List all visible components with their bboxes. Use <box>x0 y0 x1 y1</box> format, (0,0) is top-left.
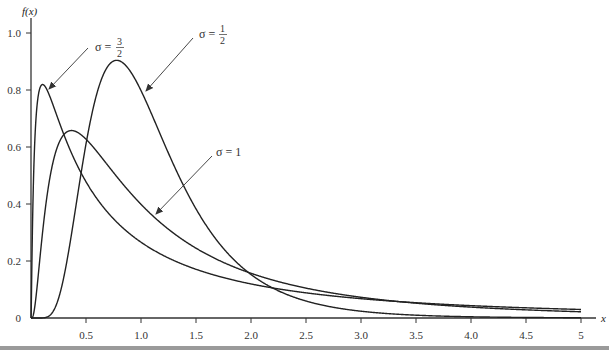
x-tick-label: 2.0 <box>244 329 258 341</box>
label-sigma-1-2-num: 1 <box>220 23 225 34</box>
x-tick-label: 1.5 <box>189 329 203 341</box>
x-tick-label: 5 <box>578 329 584 341</box>
x-tick-label: 2.5 <box>299 329 313 341</box>
x-tick-label: 4.0 <box>464 329 478 341</box>
arrow-sigma-1-2 <box>146 38 193 91</box>
x-tick-label: 4.5 <box>519 329 533 341</box>
y-axis-ticks: 00.20.40.60.81.0 <box>7 27 31 324</box>
x-axis-label: x <box>600 312 606 324</box>
y-tick-label: 0.6 <box>7 141 21 153</box>
y-tick-label: 1.0 <box>7 27 21 39</box>
y-tick-label: 0.2 <box>7 255 21 267</box>
y-tick-label: 0 <box>16 312 22 324</box>
annotation-sigma-1-2: σ = 1 2 <box>146 23 227 91</box>
lognormal-density-chart: f(x) x 00.20.40.60.81.0 0.51.01.52.02.53… <box>0 0 609 350</box>
curve-sigma-1 <box>31 131 581 318</box>
label-sigma-3-2-symbol: σ = <box>95 40 111 54</box>
bottom-border-bar <box>0 346 609 350</box>
y-axis-label: f(x) <box>22 5 38 18</box>
y-tick-label: 0.4 <box>7 198 21 210</box>
x-tick-label: 3.5 <box>409 329 423 341</box>
arrow-sigma-3-2 <box>49 48 88 89</box>
x-tick-label: 0.5 <box>79 329 93 341</box>
label-sigma-1: σ = 1 <box>216 145 241 159</box>
y-tick-label: 0.8 <box>7 84 21 96</box>
x-tick-label: 3.0 <box>354 329 368 341</box>
annotation-sigma-3-2: σ = 3 2 <box>49 36 124 89</box>
label-sigma-1-2-den: 2 <box>220 35 225 46</box>
curve-sigma-1-5 <box>31 85 581 318</box>
label-sigma-1-2-symbol: σ = <box>199 27 215 41</box>
x-tick-label: 1.0 <box>134 329 148 341</box>
label-sigma-3-2-num: 3 <box>117 36 122 47</box>
density-curves <box>31 60 581 318</box>
x-axis-ticks: 0.51.01.52.02.53.03.54.04.55 <box>79 318 584 341</box>
label-sigma-3-2-den: 2 <box>117 48 122 59</box>
curve-sigma-0-5 <box>31 60 581 318</box>
arrow-sigma-1 <box>156 156 212 214</box>
